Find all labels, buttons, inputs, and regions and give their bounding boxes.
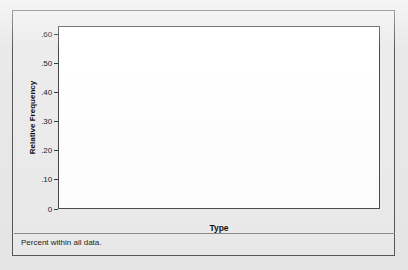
- y-axis-tick: .60: [41, 29, 58, 41]
- plot-area: [58, 26, 380, 209]
- y-axis-tick-label: .60: [41, 30, 52, 39]
- y-axis-tick-label: .40: [41, 88, 52, 97]
- y-axis-tick-label: .20: [41, 146, 52, 155]
- y-axis-tick: 0: [48, 203, 58, 215]
- y-axis-tick-label: 0: [48, 205, 52, 214]
- y-axis-tick: .20: [41, 145, 58, 157]
- y-axis-tick: .30: [41, 116, 58, 128]
- footnote-text: Percent within all data.: [21, 238, 102, 247]
- y-axis-title: Relative Frequency: [25, 26, 39, 209]
- bars-container: [59, 27, 379, 208]
- footnote-divider: [14, 233, 395, 234]
- x-axis-title: Type: [58, 223, 380, 233]
- y-axis-tick-label: .30: [41, 117, 52, 126]
- y-axis-tick: .10: [41, 174, 58, 186]
- y-axis-tick: .40: [41, 87, 58, 99]
- y-axis-tick-label: .50: [41, 59, 52, 68]
- y-axis-tick-label: .10: [41, 175, 52, 184]
- y-axis-tick: .50: [41, 58, 58, 70]
- chart-outer-panel: 0.10.20.30.40.50.60 Relative Frequency T…: [12, 10, 395, 256]
- chart-screenshot: 0.10.20.30.40.50.60 Relative Frequency T…: [0, 0, 408, 270]
